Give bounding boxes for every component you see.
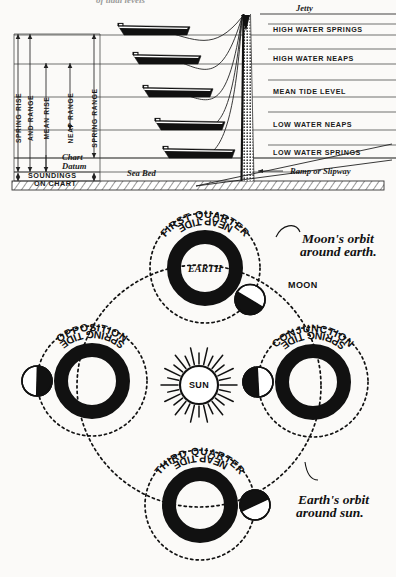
tide-level-label: HIGH WATER SPRINGS — [273, 25, 363, 34]
tide-level-label: LOW WATER SPRINGS — [273, 148, 361, 157]
orbit-position-conjunction: CONJUNCTIONSPRING TIDE — [243, 322, 368, 437]
tide-range-bar: NEAP RANGE — [67, 63, 74, 143]
mooring-rope — [196, 17, 242, 128]
tide-range-label: MEAN RISE — [43, 97, 50, 140]
page-title-text: of tidal levels — [96, 0, 145, 5]
sun-label: SUN — [189, 380, 209, 390]
moored-boat — [133, 52, 202, 64]
sea-bed-label: Sea Bed — [127, 168, 157, 178]
tide-level-label: MEAN TIDE LEVEL — [273, 87, 346, 96]
orbit-position-third-quarter: THIRD QUARTERNEAP TIDE — [145, 445, 270, 560]
earth-body — [61, 350, 123, 412]
moored-boat — [143, 85, 214, 97]
moon-orbit-leader — [276, 226, 300, 237]
moon-orbit-circle — [37, 326, 147, 436]
tide-range-bar: MEAN RISE — [43, 63, 50, 172]
orbit-position-opposition: OPPOSITIONSPRING TIDE — [22, 321, 147, 436]
moon-body — [240, 490, 270, 520]
earth-label: EARTH — [187, 263, 223, 274]
page-root: JettyHIGH WATER SPRINGSHIGH WATER NEAPSM… — [0, 0, 396, 577]
chart-datum-label-line2: Datum — [61, 161, 87, 171]
earth-orbit-leader — [305, 462, 318, 480]
tide-level-label: HIGH WATER NEAPS — [273, 54, 354, 63]
orbit-position-first-quarter: EARTHFIRST QUARTERNEAP TIDE — [150, 208, 265, 323]
moon-body — [243, 367, 273, 397]
moon-label: MOON — [288, 280, 318, 290]
tide-range-label: NEAP RANGE — [67, 93, 74, 144]
moored-boat — [118, 23, 191, 35]
soundings-label-line2: ON CHART — [34, 179, 76, 188]
moon-body — [22, 366, 52, 396]
sun: SUN — [161, 348, 237, 422]
ramp-label: Ramp or Slipway — [289, 166, 351, 176]
spring-neap-tide-orbit-diagram: SUNEARTHFIRST QUARTERNEAP TIDEOPPOSITION… — [0, 196, 396, 577]
tide-level-label: LOW WATER NEAPS — [273, 120, 352, 129]
tide-range-label: AND RANGE — [27, 95, 34, 141]
moon-body — [235, 285, 265, 315]
moored-boat — [163, 146, 236, 158]
earth-body — [282, 351, 344, 413]
moored-boat — [155, 118, 226, 130]
moon-orbit-note-line2: around earth. — [300, 244, 377, 259]
tide-range-bar: AND RANGE — [27, 34, 34, 172]
earth-orbit-note-line2: around sun. — [296, 505, 364, 520]
page-title-fragment: of tidal levels — [0, 0, 396, 10]
tide-range-label: SPRING RANGE — [91, 88, 98, 147]
tide-range-bar: SPRING RISE — [15, 34, 22, 172]
tidal-levels-diagram: JettyHIGH WATER SPRINGSHIGH WATER NEAPSM… — [0, 0, 396, 196]
tide-range-bar: SPRING RANGE — [91, 34, 98, 158]
tide-range-label: SPRING RISE — [15, 93, 22, 143]
